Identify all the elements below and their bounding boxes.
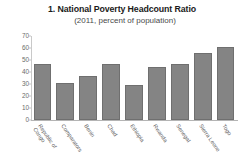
bar-slot xyxy=(191,36,214,120)
y-axis-tick-label: 20 xyxy=(22,93,29,99)
y-axis-tick-label: 10 xyxy=(22,105,29,111)
y-axis-tick-label: 30 xyxy=(22,81,29,87)
bar-slot xyxy=(31,36,54,120)
bar xyxy=(194,53,212,120)
x-axis-tick-label: Senegal xyxy=(175,123,192,143)
chart-figure: 1. National Poverty Headcount Ratio (201… xyxy=(0,0,244,168)
x-axis-label-slot: Benin xyxy=(77,122,100,168)
x-axis-label-slot: Comparators xyxy=(54,122,77,168)
bar xyxy=(148,67,166,120)
plot-area: 010203040506070 xyxy=(31,36,237,120)
x-axis-label-slot: Chad xyxy=(100,122,123,168)
bar-slot xyxy=(145,36,168,120)
bar xyxy=(171,64,189,120)
bar xyxy=(79,76,97,120)
page-title: 1. National Poverty Headcount Ratio xyxy=(0,4,244,15)
x-axis-label-slot: Ethiopia xyxy=(123,122,146,168)
chart-title-block: 1. National Poverty Headcount Ratio (201… xyxy=(0,4,244,26)
y-axis-tick-label: 70 xyxy=(22,33,29,39)
bar-series xyxy=(31,36,237,120)
x-axis-tick-label: Rwanda xyxy=(152,123,169,143)
x-axis-tick-label: Benin xyxy=(83,123,96,138)
y-axis-tick-label: 50 xyxy=(22,57,29,63)
x-axis-line xyxy=(31,120,238,121)
x-axis-tick-label: Ethiopia xyxy=(129,123,146,143)
x-axis-tick-label: Chad xyxy=(106,123,119,137)
bar xyxy=(34,64,52,120)
x-axis-label-slot: Republic ofCongo xyxy=(31,122,54,168)
x-axis-label-slot: Sierra Leone xyxy=(191,122,214,168)
bar-slot xyxy=(77,36,100,120)
x-axis-label-slot: Togo xyxy=(214,122,237,168)
y-axis-tick-label: 40 xyxy=(22,69,29,75)
x-axis-tick-label: Togo xyxy=(221,123,233,136)
y-axis-tick-label: 60 xyxy=(22,45,29,51)
bar xyxy=(56,83,74,120)
bar xyxy=(102,64,120,120)
bar-slot xyxy=(54,36,77,120)
x-axis-labels: Republic ofCongoComparatorsBeninChadEthi… xyxy=(31,122,237,168)
bar-slot xyxy=(100,36,123,120)
chart-subtitle: (2011, percent of population) xyxy=(0,15,244,26)
bar-slot xyxy=(168,36,191,120)
bar-slot xyxy=(214,36,237,120)
bar-slot xyxy=(123,36,146,120)
bar xyxy=(217,47,235,120)
x-axis-label-slot: Senegal xyxy=(168,122,191,168)
x-axis-label-slot: Rwanda xyxy=(145,122,168,168)
bar xyxy=(125,85,143,120)
